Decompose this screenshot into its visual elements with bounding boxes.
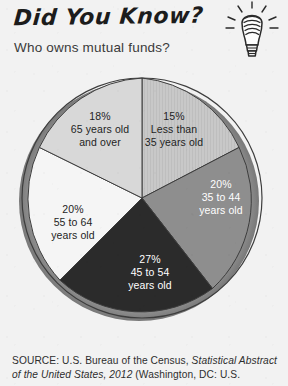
pie-label-45-54-pct: 27%: [112, 253, 188, 266]
pie-label-35-44-pct: 20%: [183, 178, 259, 191]
pie-label-45-54-line2: years old: [112, 279, 188, 292]
pie-chart: 15% Less than 35 years old 20% 35 to 44 …: [0, 0, 288, 348]
pie-label-45-54-line1: 45 to 54: [112, 266, 188, 279]
pie-label-65-over-line1: 65 years old: [55, 123, 145, 136]
pie-label-55-64-line1: 55 to 64: [33, 216, 113, 229]
source-caption: SOURCE: U.S. Bureau of the Census, Stati…: [12, 354, 284, 382]
pie-label-45-54: 27% 45 to 54 years old: [112, 253, 188, 292]
source-title-part2: of the United States, 2012: [12, 369, 132, 380]
pie-label-35-44-line2: years old: [183, 204, 259, 217]
pie-label-65-over-pct: 18%: [55, 110, 145, 123]
source-prefix: SOURCE: U.S. Bureau of the Census,: [12, 355, 192, 366]
pie-label-55-64-pct: 20%: [33, 203, 113, 216]
source-suffix: (Washington, DC: U.S.: [132, 369, 240, 380]
pie-label-55-64-line2: years old: [33, 229, 113, 242]
pie-label-55-64: 20% 55 to 64 years old: [33, 203, 113, 242]
pie-label-65-over: 18% 65 years old and over: [55, 110, 145, 149]
source-title-part1: Statistical Abstract: [192, 355, 277, 366]
pie-label-65-over-line2: and over: [55, 136, 145, 149]
pie-label-35-44-line1: 35 to 44: [183, 191, 259, 204]
pie-label-35-44: 20% 35 to 44 years old: [183, 178, 259, 217]
